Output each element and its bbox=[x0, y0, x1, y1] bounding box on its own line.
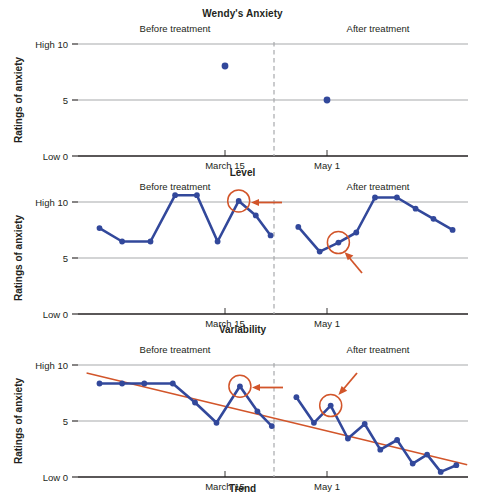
data-point-after bbox=[324, 97, 331, 104]
data-point bbox=[394, 195, 400, 201]
panel-caption-trend: Trend bbox=[0, 483, 485, 494]
data-point bbox=[353, 230, 359, 236]
phase-label-before: Before treatment bbox=[140, 344, 211, 355]
data-point-before bbox=[222, 63, 229, 70]
data-point bbox=[453, 462, 459, 468]
phase-label-after: After treatment bbox=[347, 181, 410, 192]
data-point bbox=[97, 225, 103, 231]
data-point bbox=[450, 227, 456, 233]
series-after-treatment bbox=[294, 394, 460, 475]
ytick-label-5: 5 bbox=[63, 416, 68, 427]
panel-caption-variability: Variability bbox=[0, 324, 485, 335]
series-line-before bbox=[100, 384, 272, 427]
series-line-after bbox=[298, 198, 452, 252]
data-point bbox=[148, 239, 154, 245]
ytick-label-5: 5 bbox=[63, 95, 68, 106]
data-point bbox=[255, 408, 261, 414]
ytick-label-0: Low 0 bbox=[43, 309, 68, 320]
data-point bbox=[192, 400, 198, 406]
series-before-treatment bbox=[97, 192, 274, 244]
y-axis-label: Ratings of anxiety bbox=[13, 215, 24, 302]
data-point bbox=[141, 381, 147, 387]
data-point bbox=[328, 403, 334, 409]
ytick-label-10: High 10 bbox=[35, 197, 68, 208]
data-point bbox=[336, 240, 342, 246]
figure-title: Wendy's Anxiety bbox=[0, 8, 485, 19]
data-point bbox=[295, 224, 301, 230]
data-point bbox=[253, 213, 259, 219]
panel-caption-level: Level bbox=[0, 167, 485, 178]
panel-level: Before treatment After treatment High 10… bbox=[0, 20, 485, 180]
data-point bbox=[215, 239, 221, 245]
panel-variability: Before treatment After treatment High 10… bbox=[0, 178, 485, 340]
ytick-label-5: 5 bbox=[63, 253, 68, 264]
ytick-label-0: Low 0 bbox=[43, 151, 68, 162]
phase-label-after: After treatment bbox=[347, 344, 410, 355]
phase-label-before: Before treatment bbox=[140, 181, 211, 192]
data-point bbox=[294, 394, 300, 400]
data-point bbox=[410, 461, 416, 467]
series-before-treatment bbox=[97, 381, 275, 429]
data-point bbox=[119, 381, 125, 387]
data-point bbox=[194, 192, 200, 198]
data-point bbox=[268, 233, 274, 239]
data-point bbox=[424, 452, 430, 458]
data-point bbox=[431, 216, 437, 222]
data-point bbox=[372, 195, 378, 201]
data-point bbox=[119, 239, 125, 245]
panel-trend-plot: Before treatment After treatment High 10… bbox=[0, 341, 485, 498]
data-point bbox=[170, 381, 176, 387]
phase-label-after: After treatment bbox=[347, 23, 410, 34]
data-point bbox=[311, 420, 317, 426]
panel-trend: Before treatment After treatment High 10… bbox=[0, 341, 485, 498]
figure-container: Wendy's Anxiety Before treatment After t… bbox=[0, 0, 485, 498]
data-point bbox=[362, 421, 368, 427]
data-point bbox=[377, 447, 383, 453]
phase-label-before: Before treatment bbox=[140, 23, 211, 34]
data-point bbox=[394, 437, 400, 443]
data-point bbox=[237, 383, 243, 389]
arrow-head-icon bbox=[252, 384, 260, 391]
data-point bbox=[172, 192, 178, 198]
data-point bbox=[97, 381, 103, 387]
ytick-label-10: High 10 bbox=[35, 39, 68, 50]
panel-level-plot: Before treatment After treatment High 10… bbox=[0, 20, 485, 180]
ytick-label-10: High 10 bbox=[35, 360, 68, 371]
data-point bbox=[317, 249, 323, 255]
arrow-head-icon bbox=[251, 199, 259, 206]
data-point bbox=[269, 423, 275, 429]
y-axis-label: Ratings of anxiety bbox=[13, 57, 24, 144]
series-after-treatment bbox=[295, 195, 455, 255]
data-point bbox=[214, 420, 220, 426]
panel-variability-plot: Before treatment After treatment High 10… bbox=[0, 178, 485, 340]
y-axis-label: Ratings of anxiety bbox=[13, 378, 24, 465]
data-point bbox=[345, 436, 351, 442]
data-point bbox=[236, 198, 242, 204]
arrow-head-icon bbox=[345, 252, 354, 260]
data-point bbox=[438, 469, 444, 475]
ytick-label-0: Low 0 bbox=[43, 472, 68, 483]
data-point bbox=[413, 206, 419, 212]
